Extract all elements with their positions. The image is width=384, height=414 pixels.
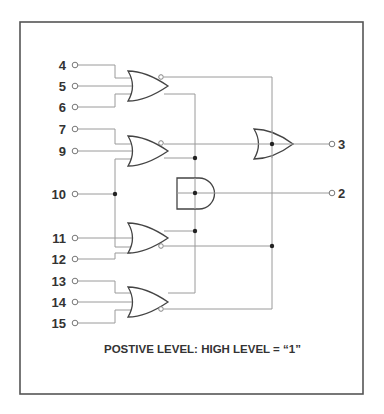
output-label-2: 2	[338, 186, 345, 201]
output-pins: 3 2	[329, 137, 345, 201]
input-label-7: 7	[59, 122, 66, 137]
input-label-6: 6	[59, 100, 66, 115]
input-label-9: 9	[59, 144, 66, 159]
input-label-11: 11	[52, 231, 66, 246]
or-gate-1	[128, 71, 168, 101]
or-gate-2	[128, 136, 168, 166]
or-gate-4	[128, 287, 168, 317]
or-gate-3	[128, 223, 168, 253]
input-label-4: 4	[59, 58, 67, 73]
diagram-caption: POSTIVE LEVEL: HIGH LEVEL = “1”	[104, 343, 301, 355]
input-label-15: 15	[52, 316, 66, 331]
logic-diagram: 4 5 6 7 9 10 11 12 13 14 15	[0, 0, 384, 414]
input-label-5: 5	[59, 79, 66, 94]
input-pins	[72, 62, 78, 326]
input-label-12: 12	[52, 252, 66, 267]
output-label-3: 3	[338, 137, 345, 152]
input-label-14: 14	[52, 295, 67, 310]
input-label-13: 13	[52, 274, 66, 289]
input-labels: 4 5 6 7 9 10 11 12 13 14 15	[52, 58, 67, 331]
input-label-10: 10	[52, 187, 66, 202]
